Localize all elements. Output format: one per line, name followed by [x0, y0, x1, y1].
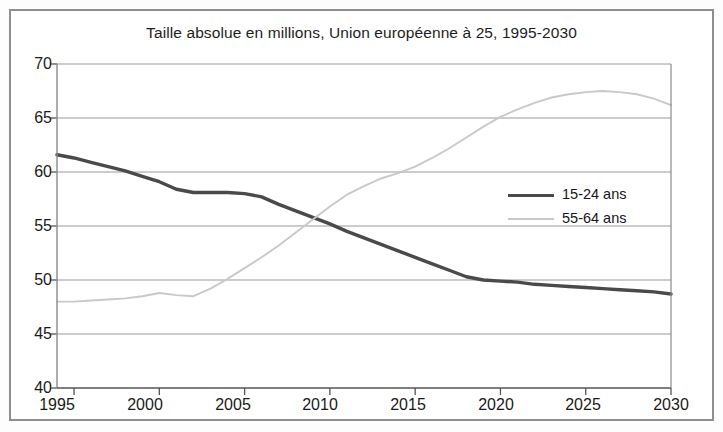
legend-swatch-55-64 — [508, 218, 554, 220]
axis-ticks — [51, 64, 671, 395]
legend-swatch-15-24 — [508, 194, 554, 197]
chart-figure: Taille absolue en millions, Union europé… — [0, 0, 723, 432]
legend-label-55-64: 55-64 ans — [562, 210, 627, 226]
legend-label-15-24: 15-24 ans — [562, 186, 627, 202]
